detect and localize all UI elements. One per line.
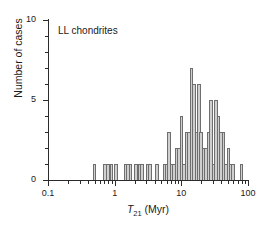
figure-histogram-ll-chondrites: 0510 0.1110100 Number of cases T21 (Myr)… <box>0 0 265 228</box>
y-axis-tick-minor <box>45 116 48 117</box>
y-axis-tick-minor <box>45 52 48 53</box>
x-axis-tick-minor <box>80 181 81 184</box>
histogram-bar <box>155 164 159 180</box>
x-axis-tick-label: 10 <box>161 188 201 198</box>
x-axis-tick-label: 1 <box>95 188 135 198</box>
y-axis-line <box>48 19 49 181</box>
x-axis-tick-minor <box>68 181 69 184</box>
x-axis-tick-label: 100 <box>228 188 265 198</box>
x-axis-tick-minor <box>112 181 113 184</box>
y-axis-tick-minor <box>45 36 48 37</box>
x-axis-tick-minor <box>88 181 89 184</box>
y-axis-tick-minor <box>45 132 48 133</box>
histogram-bar <box>93 164 97 180</box>
y-axis-tick-major <box>43 100 48 101</box>
x-axis-tick-minor <box>175 181 176 184</box>
y-axis-tick-minor <box>45 148 48 149</box>
y-axis-tick-minor <box>45 68 48 69</box>
y-axis-tick-label: 0 <box>16 174 36 184</box>
x-axis-title: T21 (Myr) <box>48 203 248 218</box>
x-axis-title-subscript: 21 <box>133 209 141 218</box>
x-axis-tick-minor <box>135 181 136 184</box>
x-axis-tick-minor <box>228 181 229 184</box>
histogram-bar <box>129 164 133 180</box>
x-axis-tick-minor <box>155 181 156 184</box>
x-axis-tick-minor <box>245 181 246 184</box>
x-axis-tick-major <box>248 181 249 186</box>
histogram-bar <box>140 164 144 180</box>
x-axis-tick-label: 0.1 <box>28 188 68 198</box>
x-axis-tick-minor <box>221 181 222 184</box>
y-axis-title: Number of cases <box>12 0 24 128</box>
y-axis-tick-major <box>43 20 48 21</box>
x-axis-tick-minor <box>238 181 239 184</box>
x-axis-tick-minor <box>242 181 243 184</box>
x-axis-tick-minor <box>213 181 214 184</box>
y-axis-tick-minor <box>45 84 48 85</box>
x-axis-tick-minor <box>171 181 172 184</box>
x-axis-tick-major <box>181 181 182 186</box>
x-axis-tick-minor <box>161 181 162 184</box>
y-axis-tick-minor <box>45 164 48 165</box>
histogram-bar <box>114 164 118 180</box>
x-axis-title-unit: (Myr) <box>145 203 170 215</box>
x-axis-tick-minor <box>146 181 147 184</box>
x-axis-line <box>47 180 249 181</box>
plot-annotation-label: LL chondrites <box>58 25 118 36</box>
x-axis-tick-major <box>115 181 116 186</box>
x-axis-tick-minor <box>167 181 168 184</box>
x-axis-tick-minor <box>100 181 101 184</box>
x-axis-tick-major <box>48 181 49 186</box>
x-axis-tick-minor <box>201 181 202 184</box>
histogram-bar <box>148 164 152 180</box>
x-axis-tick-minor <box>178 181 179 184</box>
histogram-bar <box>240 164 244 180</box>
histogram-bar <box>231 164 235 180</box>
x-axis-tick-minor <box>108 181 109 184</box>
x-axis-tick-minor <box>104 181 105 184</box>
histogram-bar <box>110 164 114 180</box>
x-axis-tick-minor <box>233 181 234 184</box>
x-axis-tick-minor <box>95 181 96 184</box>
